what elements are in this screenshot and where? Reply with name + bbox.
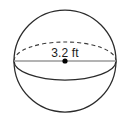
- equator-front-arc-solid: [14, 61, 116, 80]
- diameter-measurement-label: 3.2 ft: [0, 47, 130, 60]
- sphere-diagram-svg: [0, 0, 130, 121]
- sphere-figure: 3.2 ft: [0, 0, 130, 121]
